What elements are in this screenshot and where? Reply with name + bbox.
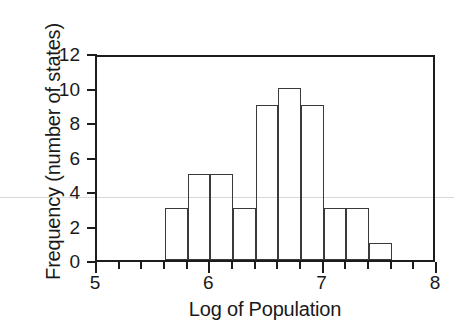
x-axis-minor-tick bbox=[276, 262, 278, 269]
histogram-bar bbox=[324, 208, 347, 260]
histogram-bar bbox=[346, 208, 369, 260]
x-axis-tick-label: 8 bbox=[415, 273, 454, 292]
x-axis-minor-tick bbox=[299, 262, 301, 269]
x-axis-minor-tick bbox=[118, 262, 120, 269]
histogram-bar bbox=[165, 208, 188, 260]
histogram-bar bbox=[210, 174, 233, 260]
x-axis-tick-label: 5 bbox=[75, 273, 115, 292]
plot-area bbox=[95, 55, 435, 262]
x-axis-minor-tick bbox=[140, 262, 142, 269]
y-axis-tick-label: 12 bbox=[40, 45, 80, 64]
x-axis-minor-tick bbox=[344, 262, 346, 269]
x-axis-minor-tick bbox=[231, 262, 233, 269]
histogram-bar bbox=[301, 105, 324, 260]
y-axis-tick-label: 6 bbox=[40, 149, 80, 168]
y-axis-tick-label: 0 bbox=[40, 252, 80, 271]
histogram-bar bbox=[369, 243, 392, 260]
x-axis-minor-tick bbox=[412, 262, 414, 269]
x-axis-label: Log of Population bbox=[95, 298, 435, 321]
histogram-bars bbox=[97, 57, 433, 260]
y-axis-tick-label: 8 bbox=[40, 114, 80, 133]
histogram-bar bbox=[256, 105, 279, 260]
histogram-bar bbox=[278, 88, 301, 261]
x-axis-minor-tick bbox=[163, 262, 165, 269]
x-axis-minor-tick bbox=[367, 262, 369, 269]
x-axis-minor-tick bbox=[186, 262, 188, 269]
histogram-bar bbox=[233, 208, 256, 260]
x-axis-minor-tick bbox=[254, 262, 256, 269]
y-axis-tick-label: 2 bbox=[40, 218, 80, 237]
x-axis-tick-label: 6 bbox=[188, 273, 228, 292]
y-axis-tick-label: 4 bbox=[40, 183, 80, 202]
x-axis-minor-tick bbox=[390, 262, 392, 269]
histogram-bar bbox=[188, 174, 211, 260]
y-axis-tick-label: 10 bbox=[40, 80, 80, 99]
histogram-figure: Frequency (number of states) 024681012 5… bbox=[0, 0, 454, 336]
x-axis-tick-label: 7 bbox=[302, 273, 342, 292]
